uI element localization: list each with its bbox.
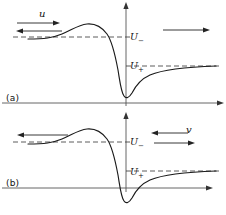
panel-a: [2, 2, 224, 106]
panel-b-flow-arrow-left: [151, 131, 188, 136]
panel-a-curve: [28, 24, 216, 98]
panel-a-flow-arrow-right: [17, 21, 60, 26]
panel-b-curve: [28, 129, 216, 203]
panel-b-y-axis: [123, 112, 128, 192]
panel-a-flow-arrow-left: [16, 29, 62, 34]
panel-a-y-axis: [123, 2, 128, 106]
panel-a-flow-label: u: [39, 8, 45, 19]
panel-label-a: (a): [6, 93, 19, 103]
panel-b-label-u-minus: U−: [130, 136, 144, 150]
panel-b-frame-arrow-left: [17, 133, 68, 138]
soliton-potential-figure: [0, 0, 226, 215]
panel-a-label-u-minus: U−: [130, 31, 144, 45]
panel-a-frame-arrow-right: [163, 28, 210, 33]
panel-a-x-axis: [2, 100, 224, 105]
panel-b-label-u-plus: U+: [130, 166, 144, 180]
panel-label-b: (b): [6, 178, 19, 188]
panel-b-flow-arrow-right: [154, 141, 195, 146]
panel-a-label-u-plus: U+: [130, 60, 144, 74]
panel-b-x-axis: [2, 185, 213, 190]
panel-b-flow-label: v: [186, 124, 192, 135]
